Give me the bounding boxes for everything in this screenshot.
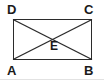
geometry-figure: D C A B E [0, 0, 104, 82]
vertex-label-b: B [84, 64, 93, 77]
bottom-divider [0, 79, 104, 80]
vertex-label-d: D [7, 3, 16, 16]
vertex-label-e: E [50, 40, 58, 52]
vertex-label-c: C [84, 3, 93, 16]
vertex-label-a: A [7, 64, 16, 77]
